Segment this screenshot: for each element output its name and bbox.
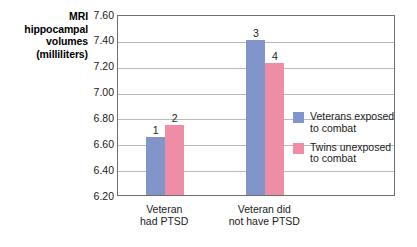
bar-value-label: 4 <box>259 51 290 62</box>
x-axis-category-label: Veteranhad PTSD <box>109 203 219 227</box>
chart-figure: MRI hippocampal volumes (milliliters) 7.… <box>0 0 417 247</box>
x-axis-category-label-line: had PTSD <box>109 215 219 227</box>
legend-label-twins-unexposed: Twins unexposed to combat <box>310 142 391 166</box>
y-axis-tick-label: 6.40 <box>86 165 114 176</box>
legend-swatch-twins-unexposed <box>293 143 304 154</box>
y-axis-tick-label: 6.80 <box>86 113 114 124</box>
x-axis-category-label: Veteran didnot have PTSD <box>209 203 319 227</box>
legend-label-veterans-exposed: Veterans exposed to combat <box>310 111 394 135</box>
legend-label-line-1: Veterans exposed <box>310 110 394 122</box>
legend-item-veterans-exposed: Veterans exposed to combat <box>293 111 395 135</box>
y-axis-title-line-4: (milliliters) <box>2 48 88 61</box>
plot-area: 1234 Veterans exposed to combat Twins un… <box>117 15 395 196</box>
y-axis-title-line-2: hippocampal <box>2 23 88 36</box>
bar-twins-unexposed <box>165 125 184 195</box>
legend-label-line-2: to combat <box>310 152 356 164</box>
bar-value-label: 2 <box>159 113 190 124</box>
x-axis-category-label-line: not have PTSD <box>209 215 319 227</box>
y-axis-tick-label: 7.60 <box>86 10 114 21</box>
y-axis-title-line-3: volumes <box>2 35 88 48</box>
legend-item-twins-unexposed: Twins unexposed to combat <box>293 142 395 166</box>
chart-legend: Veterans exposed to combat Twins unexpos… <box>293 111 395 172</box>
y-axis-title: MRI hippocampal volumes (milliliters) <box>2 10 88 60</box>
bar-twins-unexposed <box>265 63 284 195</box>
y-axis-tick-label: 6.20 <box>86 191 114 202</box>
y-axis-title-line-1: MRI <box>2 10 88 23</box>
y-axis-tick-label: 7.00 <box>86 87 114 98</box>
legend-swatch-veterans-exposed <box>293 112 304 123</box>
legend-label-line-2: to combat <box>310 122 356 134</box>
y-axis-tick-label: 6.60 <box>86 139 114 150</box>
x-axis-category-label-line: Veteran did <box>209 203 319 215</box>
bar-veterans-exposed <box>246 40 265 195</box>
x-axis-category-label-line: Veteran <box>109 203 219 215</box>
bar-veterans-exposed <box>146 137 165 195</box>
bar-value-label: 3 <box>240 28 271 39</box>
y-axis-tick-label: 7.40 <box>86 35 114 46</box>
y-axis-tick-label: 7.20 <box>86 61 114 72</box>
legend-label-line-1: Twins unexposed <box>310 141 391 153</box>
